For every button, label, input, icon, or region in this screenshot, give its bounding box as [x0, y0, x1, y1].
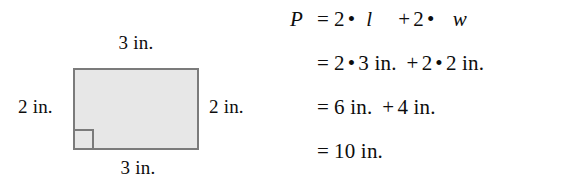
multiplication-dot: • [345, 51, 359, 75]
multiplication-dot: • [345, 7, 359, 31]
equation-line-3: = 6 in.+4 in. [290, 95, 436, 119]
plus-sign: + [404, 51, 422, 75]
dimension-label-top: 3 in. [0, 32, 272, 54]
equation-line-4: = 10 in. [290, 139, 383, 163]
coefficient-two: 2 [422, 51, 433, 75]
dimension-label-left: 2 in. [18, 96, 53, 118]
coefficient-two: 2 [413, 7, 424, 31]
equals-sign: = [312, 139, 334, 163]
rectangle-diagram: 3 in. 2 in. 2 in. 3 in. [0, 0, 290, 194]
perimeter-worked-example-figure: 3 in. 2 in. 2 in. 3 in. P= 2•l+2•w = 2•3… [0, 0, 575, 194]
coefficient-two: 2 [334, 51, 345, 75]
equals-sign: = [312, 7, 334, 31]
dimension-label-right: 2 in. [209, 96, 244, 118]
plus-sign: + [395, 7, 413, 31]
length-product: 6 in. [334, 95, 372, 119]
variable-length: l [365, 7, 373, 31]
width-product: 4 in. [397, 95, 435, 119]
coefficient-two: 2 [334, 7, 345, 31]
equals-sign: = [312, 51, 334, 75]
plus-sign: + [379, 95, 397, 119]
equation-line-1: P= 2•l+2•w [290, 7, 468, 31]
perimeter-result: 10 in. [334, 139, 383, 163]
length-value: 3 in. [358, 51, 396, 75]
width-value: 2 in. [446, 51, 484, 75]
right-angle-marker-icon [75, 129, 94, 148]
multiplication-dot: • [432, 51, 446, 75]
dimension-label-bottom: 3 in. [0, 157, 276, 179]
variable-width: w [452, 7, 468, 31]
multiplication-dot: • [424, 7, 438, 31]
equation-line-2: = 2•3 in.+2•2 in. [290, 51, 484, 75]
variable-perimeter: P [290, 7, 312, 31]
equals-sign: = [312, 95, 334, 119]
perimeter-equation-block: P= 2•l+2•w = 2•3 in.+2•2 in. = 6 in.+4 i… [290, 0, 575, 194]
